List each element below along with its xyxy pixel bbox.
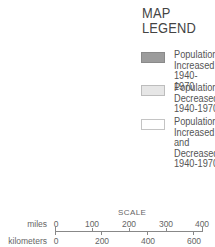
scale-miles-row: miles 0 100 200 300 400 xyxy=(0,219,215,231)
legend-title: MAP LEGEND xyxy=(142,6,196,36)
swatch-dark-gray-icon xyxy=(141,52,165,63)
scale-tick xyxy=(55,231,56,235)
scale-tick xyxy=(129,228,130,232)
scale-tick xyxy=(166,228,167,232)
scale-tick xyxy=(147,231,148,235)
legend-item-label: Population Increased and Decreased 1940-… xyxy=(174,117,215,170)
km-tick-label: 600 xyxy=(187,236,201,246)
kilometers-label: kilometers xyxy=(0,236,47,246)
scale-tick xyxy=(92,228,93,232)
swatch-white-icon xyxy=(141,119,165,130)
legend-title-line2: LEGEND xyxy=(142,21,196,36)
km-tick-label: 200 xyxy=(95,236,109,246)
scale-tick xyxy=(202,226,203,232)
scale-kilometers-row: kilometers 0 200 400 600 xyxy=(0,236,215,247)
legend-item-population-increased-and-decreased: Population Increased and Decreased 1940-… xyxy=(141,117,215,170)
legend-title-line1: MAP xyxy=(142,6,196,21)
scale-tick xyxy=(101,231,102,235)
legend-item-label: Population Decreased 1940-1970 xyxy=(174,83,215,115)
scale-title: SCALE xyxy=(118,208,146,217)
scale-tick xyxy=(193,231,194,235)
swatch-light-gray-icon xyxy=(141,85,165,96)
legend-item-population-decreased: Population Decreased 1940-1970 xyxy=(141,83,215,115)
miles-label: miles xyxy=(0,219,47,229)
km-tick-label: 400 xyxy=(141,236,155,246)
km-tick-label: 0 xyxy=(54,236,59,246)
